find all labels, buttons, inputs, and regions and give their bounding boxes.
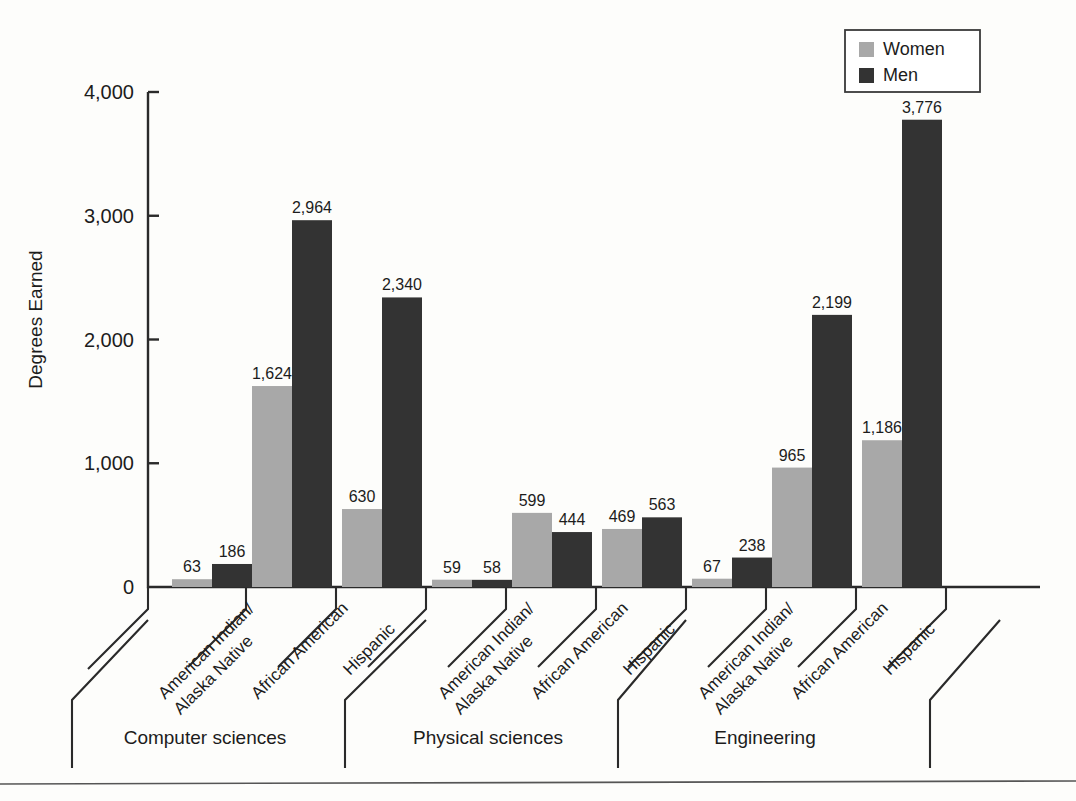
bar-value-label: 186 bbox=[219, 543, 246, 560]
footer-divider bbox=[0, 781, 1076, 784]
category-label: American Indian/Alaska Native bbox=[154, 599, 273, 718]
group-labels: Computer sciencesPhysical sciencesEngine… bbox=[124, 727, 816, 748]
y-tick-label: 1,000 bbox=[84, 452, 134, 474]
bar-value-label: 3,776 bbox=[902, 99, 942, 116]
group-label: Computer sciences bbox=[124, 727, 287, 748]
bar-value-label: 1,624 bbox=[252, 365, 292, 382]
bar-women bbox=[602, 529, 642, 587]
footer-rule bbox=[0, 781, 1076, 784]
bar-value-label: 63 bbox=[183, 558, 201, 575]
grouped-bar-chart: 01,0002,0003,0004,000 Degrees Earned 631… bbox=[0, 0, 1076, 801]
category-label: American Indian/Alaska Native bbox=[434, 599, 553, 718]
y-tick-label: 4,000 bbox=[84, 81, 134, 103]
category-label-line: African American bbox=[527, 599, 631, 703]
legend-swatch-women[interactable] bbox=[859, 42, 874, 57]
category-label: African American bbox=[247, 599, 351, 703]
bar-value-label: 67 bbox=[703, 558, 721, 575]
bar-men bbox=[902, 120, 942, 587]
legend-label-women[interactable]: Women bbox=[883, 39, 945, 59]
category-label: African American bbox=[527, 599, 631, 703]
bar-value-label: 469 bbox=[609, 508, 636, 525]
category-label-line: Hispanic bbox=[339, 619, 399, 679]
category-label-line: African American bbox=[787, 599, 891, 703]
legend-label-men[interactable]: Men bbox=[883, 65, 918, 85]
bar-value-label: 599 bbox=[519, 492, 546, 509]
category-label-line: Hispanic bbox=[879, 619, 939, 679]
bar-value-label: 59 bbox=[443, 559, 461, 576]
bar-women bbox=[512, 513, 552, 587]
bar-men bbox=[212, 564, 252, 587]
bar-value-label: 1,186 bbox=[862, 419, 902, 436]
bar-men bbox=[472, 580, 512, 587]
category-label-line: Hispanic bbox=[619, 619, 679, 679]
bar-value-label: 58 bbox=[483, 559, 501, 576]
y-tick-label: 0 bbox=[123, 576, 134, 598]
bars-layer bbox=[172, 120, 942, 587]
bar-men bbox=[732, 558, 772, 587]
bar-value-label: 2,964 bbox=[292, 199, 332, 216]
bar-value-label: 563 bbox=[649, 496, 676, 513]
bar-value-label: 2,340 bbox=[382, 276, 422, 293]
bar-value-label: 630 bbox=[349, 488, 376, 505]
bar-men bbox=[552, 532, 592, 587]
bar-women bbox=[862, 440, 902, 587]
bar-women bbox=[172, 579, 212, 587]
legend-swatch-men[interactable] bbox=[859, 68, 874, 83]
figure-container: 01,0002,0003,0004,000 Degrees Earned 631… bbox=[0, 0, 1076, 801]
category-label-line: African American bbox=[247, 599, 351, 703]
bar-value-label: 444 bbox=[559, 511, 586, 528]
category-label: American Indian/Alaska Native bbox=[694, 599, 813, 718]
group-label: Physical sciences bbox=[413, 727, 563, 748]
category-label: African American bbox=[787, 599, 891, 703]
bar-men bbox=[292, 220, 332, 587]
bar-men bbox=[642, 517, 682, 587]
y-axis-title: Degrees Earned bbox=[25, 250, 46, 388]
bar-value-label: 965 bbox=[779, 447, 806, 464]
bar-women bbox=[692, 579, 732, 587]
category-label: Hispanic bbox=[339, 619, 399, 679]
y-tick-label: 2,000 bbox=[84, 329, 134, 351]
category-label: Hispanic bbox=[879, 619, 939, 679]
bar-men bbox=[382, 297, 422, 587]
chart-legend[interactable]: WomenMen bbox=[845, 30, 980, 92]
category-label: Hispanic bbox=[619, 619, 679, 679]
bar-value-label: 238 bbox=[739, 537, 766, 554]
y-tick-label: 3,000 bbox=[84, 205, 134, 227]
bar-women bbox=[432, 580, 472, 587]
y-axis-title-text: Degrees Earned bbox=[25, 250, 46, 388]
bar-value-label: 2,199 bbox=[812, 294, 852, 311]
bar-women bbox=[772, 468, 812, 587]
group-label: Engineering bbox=[714, 727, 815, 748]
bar-women bbox=[252, 386, 292, 587]
bar-men bbox=[812, 315, 852, 587]
bar-women bbox=[342, 509, 382, 587]
